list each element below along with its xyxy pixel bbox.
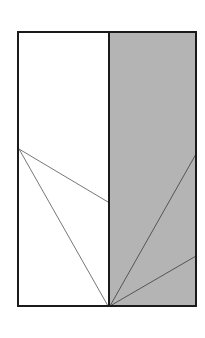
geometric-diagram	[0, 0, 205, 338]
right-shaded-region	[109, 32, 196, 306]
left-white-region	[18, 32, 109, 306]
